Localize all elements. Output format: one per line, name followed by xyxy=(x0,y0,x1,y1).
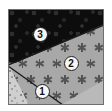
star-icon xyxy=(103,59,104,68)
star-bar xyxy=(27,76,36,82)
star-bar xyxy=(61,44,70,50)
star-bar xyxy=(86,60,95,66)
figure-root: 3 2 1 xyxy=(0,0,112,111)
star-bar xyxy=(35,60,44,66)
star-bar xyxy=(69,92,78,98)
star-icon xyxy=(44,75,53,84)
star-icon xyxy=(95,75,104,84)
unit-label-3: 3 xyxy=(33,27,48,42)
star-bar xyxy=(86,92,95,98)
star-bar xyxy=(44,76,53,82)
star-bar xyxy=(95,76,104,82)
star-bar xyxy=(78,76,87,82)
star-icon xyxy=(52,91,61,100)
star-bar xyxy=(103,60,104,66)
star-icon xyxy=(95,43,104,52)
star-icon xyxy=(103,91,104,100)
star-bar xyxy=(95,44,104,50)
star-icon xyxy=(78,75,87,84)
star-bar xyxy=(52,92,61,98)
cross-section-panel: 3 2 1 xyxy=(8,9,104,105)
star-icon xyxy=(61,43,70,52)
star-bar xyxy=(78,44,87,50)
star-bar xyxy=(61,76,70,82)
star-bar xyxy=(52,60,61,66)
star-icon xyxy=(78,43,87,52)
unit-label-2: 2 xyxy=(64,56,79,71)
star-icon xyxy=(103,27,104,36)
star-icon xyxy=(52,59,61,68)
unit-label-1: 1 xyxy=(35,84,50,99)
star-bar xyxy=(103,92,104,98)
star-icon xyxy=(69,91,78,100)
star-icon xyxy=(27,75,36,84)
star-icon xyxy=(35,59,44,68)
star-icon xyxy=(86,59,95,68)
star-bar xyxy=(103,28,104,34)
star-icon xyxy=(86,91,95,100)
star-icon xyxy=(61,75,70,84)
